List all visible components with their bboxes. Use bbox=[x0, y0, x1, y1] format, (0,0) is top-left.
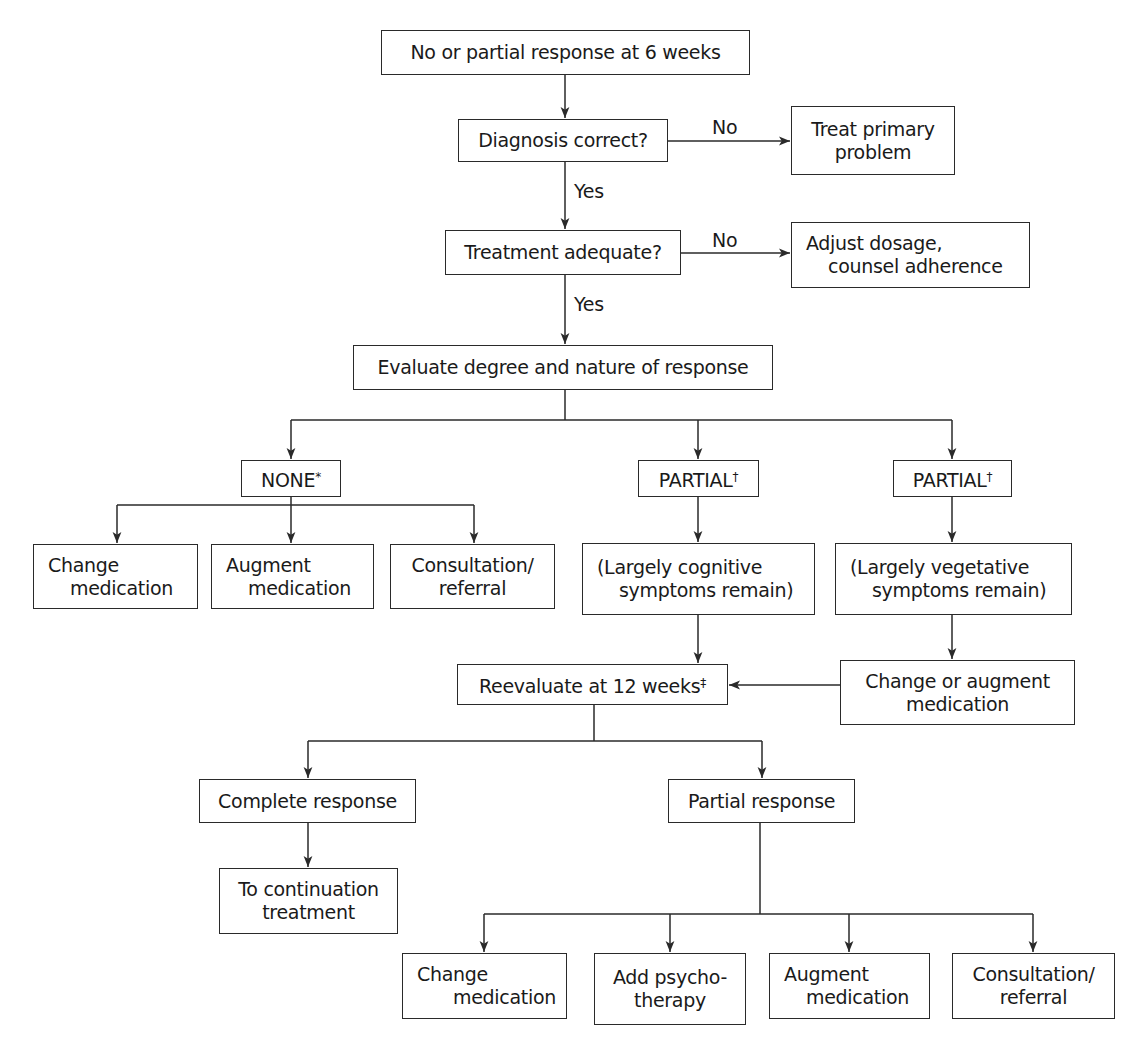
partial-cognitive-node: PARTIAL† bbox=[638, 460, 759, 497]
partial-augment-medication-node: Augment medication bbox=[769, 953, 930, 1019]
treatment-no-label: No bbox=[712, 229, 737, 251]
treatment-adequate-decision-node: Treatment adequate? bbox=[445, 230, 681, 275]
partial-vegetative-node: PARTIAL† bbox=[893, 460, 1012, 497]
diagnosis-no-label: No bbox=[712, 116, 737, 138]
partial-change-medication-node: Change medication bbox=[402, 953, 567, 1019]
reevaluate-12-weeks-node: Reevaluate at 12 weeks‡ bbox=[457, 664, 728, 705]
asterisk-footnote-mark: * bbox=[315, 470, 321, 484]
none-augment-medication-node: Augment medication bbox=[211, 544, 374, 609]
continuation-treatment-node: To continuation treatment bbox=[219, 868, 398, 934]
treat-primary-problem-node: Treat primary problem bbox=[791, 106, 955, 175]
evaluate-response-node: Evaluate degree and nature of response bbox=[353, 345, 773, 390]
vegetative-symptoms-node: (Largely vegetative symptoms remain) bbox=[835, 543, 1072, 615]
dagger-footnote-mark: † bbox=[733, 470, 739, 484]
complete-response-node: Complete response bbox=[199, 779, 416, 823]
adjust-dosage-node: Adjust dosage, counsel adherence bbox=[791, 222, 1030, 288]
change-or-augment-node: Change or augment medication bbox=[840, 660, 1075, 725]
diagnosis-yes-label: Yes bbox=[574, 180, 604, 202]
diagnosis-decision-node: Diagnosis correct? bbox=[458, 119, 668, 162]
cognitive-symptoms-node: (Largely cognitive symptoms remain) bbox=[582, 543, 815, 615]
treatment-yes-label: Yes bbox=[574, 293, 604, 315]
none-response-node: NONE* bbox=[241, 460, 341, 497]
partial-consultation-referral-node: Consultation/ referral bbox=[952, 953, 1115, 1019]
partial-response-node: Partial response bbox=[668, 779, 855, 823]
dagger-footnote-mark: † bbox=[987, 470, 993, 484]
none-consultation-referral-node: Consultation/ referral bbox=[390, 544, 555, 609]
none-change-medication-node: Change medication bbox=[33, 544, 198, 609]
start-node: No or partial response at 6 weeks bbox=[381, 30, 750, 75]
partial-add-psychotherapy-node: Add psycho- therapy bbox=[594, 953, 746, 1025]
double-dagger-footnote-mark: ‡ bbox=[700, 676, 706, 690]
